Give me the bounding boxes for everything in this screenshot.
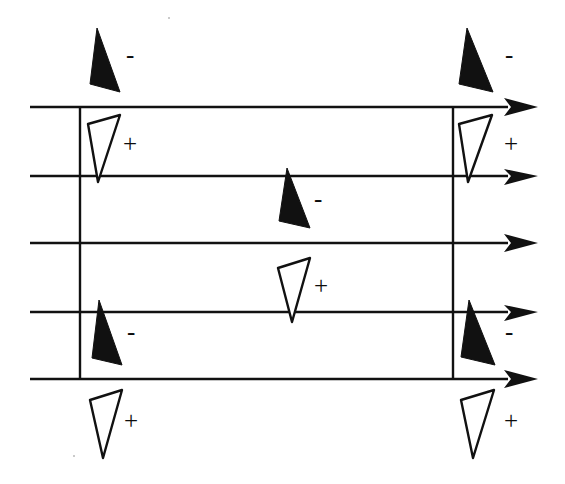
filled-triangle-marker-2 xyxy=(459,28,493,92)
scan-speck xyxy=(168,17,170,19)
filled-triangle-marker-8 xyxy=(461,300,495,365)
scan-speck xyxy=(73,455,75,457)
polarity-sign-marker-3: + xyxy=(123,131,137,156)
polarity-sign-marker-9: + xyxy=(124,408,138,433)
polarity-sign-marker-2: - xyxy=(505,42,513,67)
outline-triangle-marker-9 xyxy=(90,390,122,458)
axis-line-2-arrowhead xyxy=(504,169,538,185)
axis-line-2 xyxy=(30,169,538,185)
axis-line-5-arrowhead xyxy=(504,370,538,388)
axis-line-3-arrowhead xyxy=(504,234,538,252)
outline-triangle-marker-4 xyxy=(459,115,492,182)
figure-root: - - + + - + - - + + xyxy=(0,0,565,484)
polarity-sign-marker-6: + xyxy=(314,273,328,298)
polarity-sign-marker-5: - xyxy=(314,186,322,211)
polarity-sign-marker-4: + xyxy=(504,131,518,156)
polarity-sign-marker-1: - xyxy=(126,42,134,67)
axis-line-3 xyxy=(30,234,538,252)
outline-triangle-marker-10 xyxy=(461,390,494,458)
axis-line-1-arrowhead xyxy=(504,98,538,116)
outline-markers-group xyxy=(88,115,494,458)
filled-triangle-marker-1 xyxy=(90,28,120,92)
polarity-sign-marker-7: - xyxy=(127,319,135,344)
polarity-diagram-canvas xyxy=(0,0,565,484)
axis-line-4 xyxy=(30,305,538,321)
axis-line-5 xyxy=(30,370,538,388)
filled-triangle-marker-7 xyxy=(92,300,122,365)
polarity-sign-marker-8: - xyxy=(505,319,513,344)
polarity-sign-marker-10: + xyxy=(504,408,518,433)
outline-triangle-marker-3 xyxy=(88,115,120,182)
axis-line-1 xyxy=(30,98,538,116)
